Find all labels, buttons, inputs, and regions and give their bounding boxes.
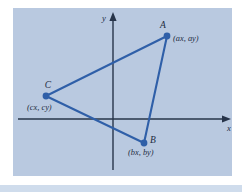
vertex-label-b: B	[150, 135, 156, 145]
x-axis-arrowhead	[222, 115, 231, 122]
vertex-dot-a	[164, 33, 171, 40]
vertex-label-c: C	[45, 80, 52, 90]
figure-root: y x A (ax, ay) B (bx, by) C (cx, cy)	[0, 0, 242, 194]
x-axis-label: x	[226, 123, 231, 133]
y-axis-arrowhead	[109, 12, 116, 21]
vertex-dot-b	[141, 140, 148, 147]
vertex-coord-a: (ax, ay)	[173, 34, 199, 43]
triangle-edge-ca	[46, 36, 167, 96]
vertex-coord-c: (cx, cy)	[27, 103, 52, 112]
vertex-dot-c	[43, 93, 50, 100]
vertex-label-a: A	[159, 20, 166, 30]
triangle-diagram: y x A (ax, ay) B (bx, by) C (cx, cy)	[0, 0, 242, 194]
vertex-coord-b: (bx, by)	[128, 148, 154, 157]
triangle-edge-ab	[144, 36, 167, 143]
y-axis-label: y	[101, 13, 106, 23]
